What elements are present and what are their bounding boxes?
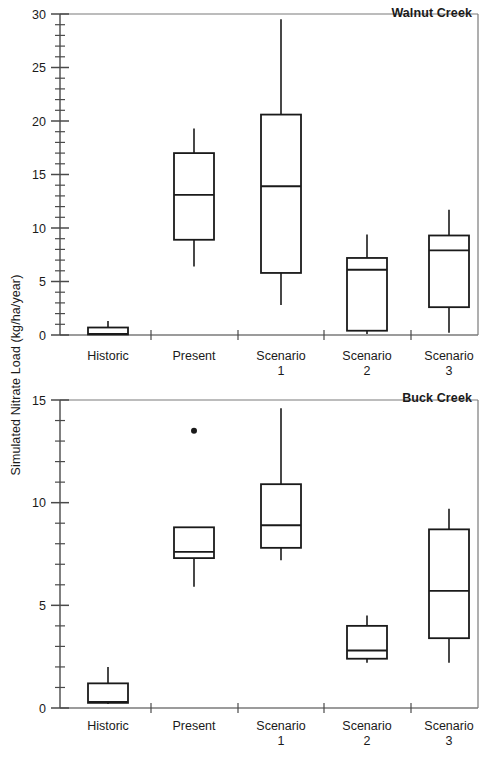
box-iqr [429, 529, 469, 638]
x-axis-label-line2: 3 [404, 364, 480, 379]
y-tick-label: 15 [32, 394, 46, 408]
y-tick-label: 5 [39, 599, 46, 613]
x-axis-label-historic: Historic [63, 349, 153, 364]
x-axis-label-line2: 1 [236, 364, 326, 379]
x-axis-labels-walnut-creek: HistoricPresentScenario1Scenario2Scenari… [26, 345, 480, 385]
x-axis-label-scenario-3: Scenario3 [404, 719, 480, 749]
boxplot-scenario-1 [261, 408, 301, 560]
box-iqr [88, 683, 128, 703]
y-tick-label: 20 [32, 115, 46, 129]
boxplot-scenario-1 [261, 19, 301, 305]
x-axis-label-line1: Historic [87, 349, 129, 363]
y-tick-label: 15 [32, 168, 46, 182]
x-axis-label-line1: Scenario [424, 719, 473, 733]
x-axis-label-line1: Scenario [256, 719, 305, 733]
boxplot-historic [88, 321, 128, 335]
x-axis-label-present: Present [149, 719, 239, 734]
x-axis-label-scenario-3: Scenario3 [404, 349, 480, 379]
boxplot-present [174, 128, 214, 266]
boxplot-present [174, 428, 214, 587]
box-iqr [174, 153, 214, 240]
boxplot-figure: Simulated Nitrate Load (kg/ha/year) 0510… [0, 0, 480, 767]
y-tick-label: 25 [32, 61, 46, 75]
x-axis-label-line1: Scenario [424, 349, 473, 363]
y-axis-label-container: Simulated Nitrate Load (kg/ha/year) [0, 0, 26, 767]
x-axis-label-line2: 2 [322, 364, 412, 379]
boxplot-scenario-2 [347, 234, 387, 334]
x-axis-label-line1: Present [172, 349, 215, 363]
x-axis-label-scenario-1: Scenario1 [236, 719, 326, 749]
y-axis-label: Simulated Nitrate Load (kg/ha/year) [9, 115, 23, 635]
box-iqr [347, 626, 387, 659]
x-axis-label-line1: Historic [87, 719, 129, 733]
boxplot-scenario-3 [429, 210, 469, 333]
x-axis-label-line1: Present [172, 719, 215, 733]
x-axis-label-scenario-2: Scenario2 [322, 349, 412, 379]
x-axis-label-line1: Scenario [256, 349, 305, 363]
y-tick-label: 0 [39, 702, 46, 716]
box-iqr [174, 527, 214, 558]
boxplot-historic [88, 667, 128, 704]
x-axis-labels-buck-creek: HistoricPresentScenario1Scenario2Scenari… [26, 715, 480, 755]
panel-title-buck-creek: Buck Creek [402, 391, 472, 405]
panel-title-walnut-creek: Walnut Creek [391, 6, 472, 20]
x-axis-label-scenario-1: Scenario1 [236, 349, 326, 379]
x-axis-label-line1: Scenario [342, 719, 391, 733]
x-axis-label-scenario-2: Scenario2 [322, 719, 412, 749]
y-tick-label: 10 [32, 222, 46, 236]
x-axis-label-present: Present [149, 349, 239, 364]
box-iqr [429, 235, 469, 307]
y-tick-label: 0 [39, 329, 46, 343]
y-tick-label: 30 [32, 8, 46, 22]
y-tick-label: 5 [39, 275, 46, 289]
box-iqr [261, 115, 301, 273]
x-axis-label-line2: 1 [236, 734, 326, 749]
x-axis-label-line1: Scenario [342, 349, 391, 363]
outlier-point [191, 428, 197, 434]
x-axis-label-line2: 3 [404, 734, 480, 749]
x-axis-label-line2: 2 [322, 734, 412, 749]
box-iqr [261, 484, 301, 548]
boxplot-scenario-2 [347, 616, 387, 663]
panel-buck-creek: 051015 Buck Creek HistoricPresentScenari… [26, 385, 480, 767]
y-tick-label: 10 [32, 496, 46, 510]
plot-area-walnut-creek: 051015202530 [26, 0, 480, 345]
panel-walnut-creek: 051015202530 Walnut Creek HistoricPresen… [26, 0, 480, 385]
boxplot-scenario-3 [429, 509, 469, 663]
plot-area-buck-creek: 051015 [26, 385, 480, 715]
x-axis-label-historic: Historic [63, 719, 153, 734]
